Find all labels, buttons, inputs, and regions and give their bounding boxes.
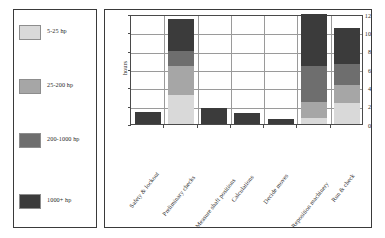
gridline-x-4: [264, 16, 265, 124]
gridline-x-1: [164, 16, 165, 124]
plot-area: [130, 15, 363, 125]
bar-segment-200-1000hp: [334, 64, 360, 84]
chart-plot-panel: hours 12 10 8 6 4 2 0: [104, 9, 372, 228]
legend-item-3: 1000+ hp: [19, 191, 95, 213]
bar-segment-1000plus-hp: [268, 119, 294, 125]
x-label-preliminary-checks: Preliminary checks: [160, 174, 196, 217]
legend-item-1: 25-200 hp: [19, 76, 95, 98]
legend-label-200-1000hp: 200-1000 hp: [47, 134, 80, 143]
gridline-x-6: [331, 16, 332, 124]
legend-swatch-1000plus-hp: [19, 194, 41, 209]
legend-label-1000plus-hp: 1000+ hp: [47, 195, 71, 204]
x-tick: [330, 125, 331, 128]
chart-legend: 5-25 hp 25-200 hp 200-1000 hp 1000+ hp: [13, 9, 97, 228]
gridline-x-3: [231, 16, 232, 124]
bar-segment-1000plus-hp: [135, 112, 161, 124]
bar-segment-200-1000hp: [168, 51, 194, 67]
bar-decide-moves: [268, 119, 294, 125]
bar-segment-25-200hp: [168, 66, 194, 94]
bar-reposition-machinery: [301, 14, 327, 124]
legend-swatch-25-200hp: [19, 79, 41, 94]
bar-segment-25-200hp: [334, 85, 360, 103]
bar-segment-1000plus-hp: [301, 14, 327, 66]
gridline-x-5: [297, 16, 298, 124]
x-tick: [163, 125, 164, 128]
x-axis: [130, 125, 363, 129]
x-tick: [296, 125, 297, 128]
bar-segment-25-200hp: [301, 102, 327, 118]
gridline-y-2: [131, 108, 362, 109]
gridline-y-8: [131, 53, 362, 54]
gridline-y-10: [131, 34, 362, 35]
bar-preliminary-checks: [168, 19, 194, 124]
bar-segment-1000plus-hp: [168, 19, 194, 51]
legend-item-2: 200-1000 hp: [19, 130, 95, 152]
bar-measure-shaft-positions: [201, 108, 227, 125]
y-axis-title: hours: [121, 48, 128, 88]
bar-safety-lockout: [135, 112, 161, 124]
x-axis-labels: Safety & lockout Preliminary checks Meas…: [130, 130, 370, 225]
gridline-y-6: [131, 71, 362, 72]
legend-label-5-25hp: 5-25 hp: [47, 26, 67, 35]
gridline-y-4: [131, 89, 362, 90]
bar-segment-5-25hp: [334, 103, 360, 124]
gridline-x-2: [198, 16, 199, 124]
chart-figure: 5-25 hp 25-200 hp 200-1000 hp 1000+ hp h…: [0, 0, 385, 238]
x-label-decide-moves: Decide moves: [261, 172, 289, 205]
bar-segment-5-25hp: [301, 118, 327, 124]
x-label-measure-shaft: Measure shaft positions: [193, 177, 236, 229]
bar-segment-200-1000hp: [301, 66, 327, 102]
bar-run-and-check: [334, 28, 360, 124]
x-label-reposition-machinery: Reposition machinery: [289, 180, 329, 229]
legend-swatch-5-25hp: [19, 25, 41, 40]
x-tick: [263, 125, 264, 128]
legend-swatch-200-1000hp: [19, 133, 41, 148]
x-label-safety-lockout: Safety & lockout: [127, 170, 160, 209]
bar-calculations: [234, 113, 260, 124]
bar-segment-1000plus-hp: [334, 28, 360, 65]
x-tick: [230, 125, 231, 128]
x-label-run-and-check: Run & check: [329, 172, 355, 203]
bar-segment-5-25hp: [168, 95, 194, 124]
bar-segment-1000plus-hp: [201, 108, 227, 125]
bar-segment-1000plus-hp: [234, 113, 260, 124]
x-tick: [197, 125, 198, 128]
legend-item-0: 5-25 hp: [19, 22, 95, 44]
legend-label-25-200hp: 25-200 hp: [47, 80, 73, 89]
